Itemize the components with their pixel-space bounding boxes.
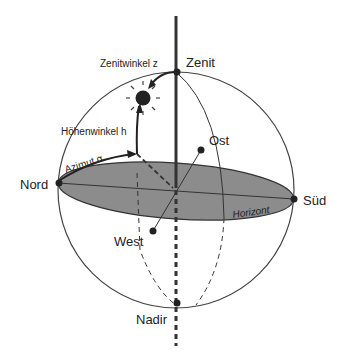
ost-point (198, 147, 205, 154)
label-sued: Süd (303, 193, 326, 208)
label-nadir: Nadir (136, 312, 168, 327)
label-nord: Nord (20, 177, 48, 192)
label-zenitwinkel: Zenitwinkel z (100, 58, 158, 69)
west-point (150, 228, 157, 235)
celestial-sphere-diagram: Zenit Zenitwinkel z Höhenwinkel h Azimut… (0, 0, 347, 359)
nadir-point (174, 300, 181, 307)
label-zenit: Zenit (186, 55, 215, 70)
zenith-point (174, 69, 181, 76)
label-ost: Ost (209, 133, 230, 148)
altitude-arc (137, 106, 139, 154)
nord-point (56, 180, 63, 187)
azimuth-arrow-icon (127, 150, 137, 158)
meridian-lower (196, 218, 224, 305)
sued-point (291, 196, 298, 203)
label-hoehenwinkel: Höhenwinkel h (61, 126, 127, 137)
label-west: West (114, 234, 144, 249)
sun-icon (126, 81, 160, 115)
